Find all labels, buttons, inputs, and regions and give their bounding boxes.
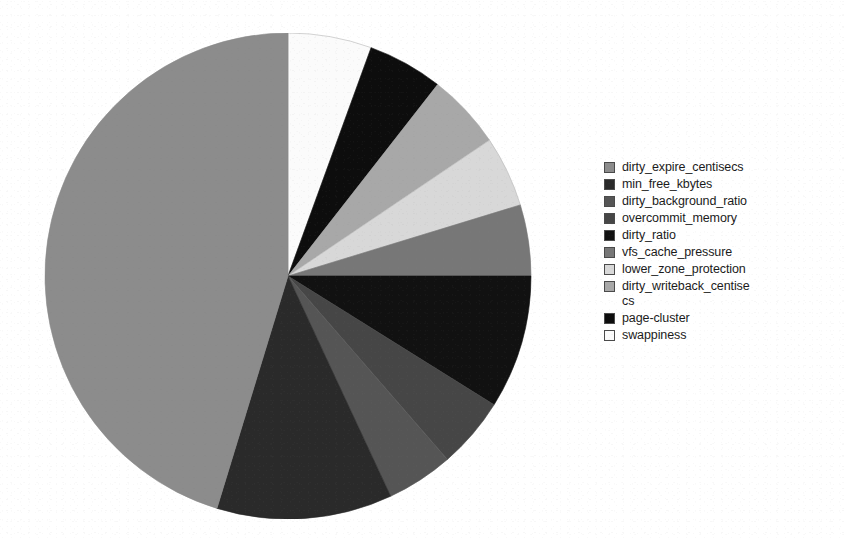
legend-item-label: swappiness xyxy=(622,328,686,343)
legend-item[interactable]: swappiness xyxy=(604,328,840,343)
legend-item-label: dirty_ratio xyxy=(622,228,676,243)
legend-item-label: page-cluster xyxy=(622,311,690,326)
legend-item[interactable]: lower_zone_protection xyxy=(604,262,840,277)
legend-color-swatch xyxy=(604,247,615,258)
pie-chart-area xyxy=(43,33,533,519)
chart-legend: dirty_expire_centisecsmin_free_kbytesdir… xyxy=(604,160,840,345)
legend-item[interactable]: dirty_expire_centisecs xyxy=(604,160,840,175)
legend-item[interactable]: page-cluster xyxy=(604,311,840,326)
legend-color-swatch xyxy=(604,281,615,292)
legend-color-swatch xyxy=(604,196,615,207)
legend-item-label: lower_zone_protection xyxy=(622,262,746,277)
legend-item-label: dirty_writeback_centise cs xyxy=(622,279,750,309)
pie-chart-svg xyxy=(43,33,533,519)
legend-color-swatch xyxy=(604,162,615,173)
legend-item-label: vfs_cache_pressure xyxy=(622,245,732,260)
legend-item[interactable]: dirty_ratio xyxy=(604,228,840,243)
legend-color-swatch xyxy=(604,179,615,190)
pie-slice-group xyxy=(45,33,531,519)
legend-color-swatch xyxy=(604,264,615,275)
legend-color-swatch xyxy=(604,213,615,224)
legend-item[interactable]: dirty_background_ratio xyxy=(604,194,840,209)
legend-item[interactable]: overcommit_memory xyxy=(604,211,840,226)
legend-color-swatch xyxy=(604,313,615,324)
pie-chart-figure: dirty_expire_centisecsmin_free_kbytesdir… xyxy=(0,0,844,538)
legend-item-label: dirty_expire_centisecs xyxy=(622,160,743,175)
legend-item[interactable]: dirty_writeback_centise cs xyxy=(604,279,840,309)
legend-item-label: dirty_background_ratio xyxy=(622,194,747,209)
legend-item-label: overcommit_memory xyxy=(622,211,737,226)
legend-color-swatch xyxy=(604,230,615,241)
legend-item[interactable]: vfs_cache_pressure xyxy=(604,245,840,260)
legend-color-swatch xyxy=(604,330,615,341)
legend-item-label: min_free_kbytes xyxy=(622,177,712,192)
legend-item[interactable]: min_free_kbytes xyxy=(604,177,840,192)
